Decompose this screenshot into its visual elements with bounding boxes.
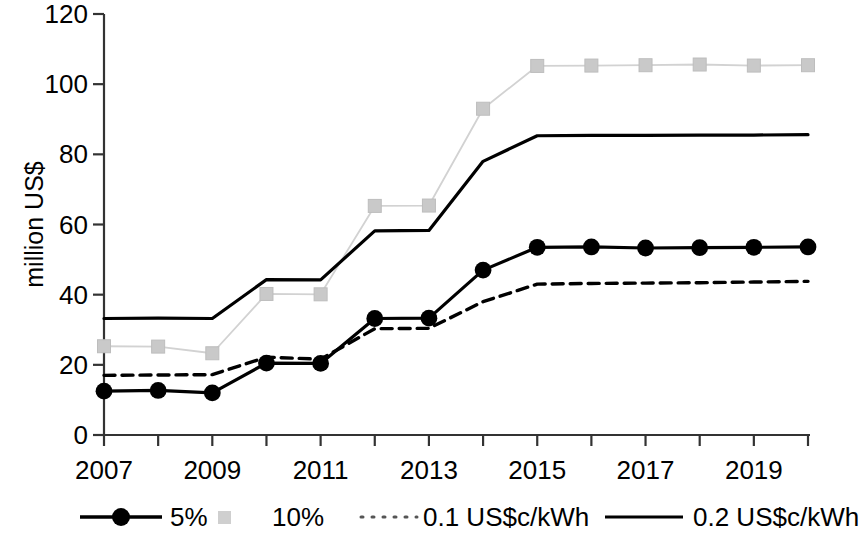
axes <box>93 14 810 446</box>
data-point <box>260 287 273 300</box>
data-point <box>693 58 706 71</box>
data-point <box>368 199 381 212</box>
legend-item-5pct[interactable]: 5% <box>78 498 208 536</box>
series-0-2-us-c-kwh <box>104 135 808 319</box>
data-point <box>150 382 167 399</box>
data-point <box>312 355 329 372</box>
legend-swatch-line-circle-marker <box>78 504 164 530</box>
data-point <box>314 288 327 301</box>
data-point <box>477 102 490 115</box>
data-point <box>475 262 492 279</box>
data-point <box>258 355 275 372</box>
data-point <box>421 310 438 327</box>
legend-item-10pct[interactable]: 10% <box>212 498 324 536</box>
data-point <box>637 240 654 257</box>
data-point <box>204 385 221 402</box>
series-line <box>104 65 808 354</box>
data-point <box>747 59 760 72</box>
data-point <box>745 239 762 256</box>
data-point <box>531 59 544 72</box>
data-point <box>691 239 708 256</box>
data-point <box>800 239 817 256</box>
legend-label-10pct: 10% <box>272 504 324 530</box>
data-point <box>206 347 219 360</box>
legend-item-02-uscents-kwh[interactable]: 0.2 US$c/kWh <box>603 498 859 536</box>
legend-swatch-dotted-line <box>359 504 419 530</box>
legend-swatch-solid-line <box>603 504 685 530</box>
data-point <box>152 340 165 353</box>
chart-legend: 5% 10% 0.1 US$c/kWh 0.2 US$c/kWh <box>0 498 824 536</box>
data-point <box>802 59 815 72</box>
data-point <box>639 59 652 72</box>
data-point <box>529 239 546 256</box>
legend-label-01-uscents-kwh: 0.1 US$c/kWh <box>423 504 589 530</box>
data-point <box>583 239 600 256</box>
data-point <box>585 59 598 72</box>
legend-item-01-uscents-kwh[interactable]: 0.1 US$c/kWh <box>359 498 589 536</box>
series-line <box>104 135 808 319</box>
data-point <box>98 340 111 353</box>
data-point <box>96 383 113 400</box>
data-point <box>422 199 435 212</box>
data-point <box>366 310 383 327</box>
legend-label-5pct: 5% <box>170 504 208 530</box>
legend-label-02-uscents-kwh: 0.2 US$c/kWh <box>693 504 859 530</box>
legend-swatch-square-marker <box>212 504 236 530</box>
data-series-group <box>96 58 817 401</box>
